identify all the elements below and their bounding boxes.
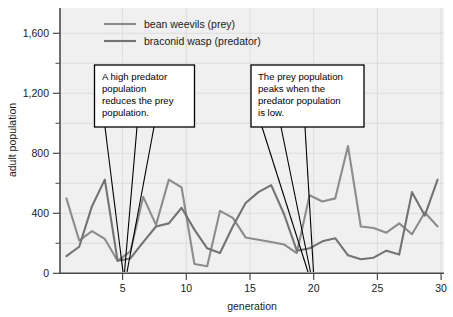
y-tick-label-0: 0 [43, 267, 49, 279]
annotation-left-line-4: population. [102, 107, 149, 118]
y-tick-label-400: 400 [31, 207, 49, 219]
x-tick-label-5: 5 [120, 282, 126, 294]
annotation-right-line-3: predator population [258, 95, 341, 106]
annotation-right-line-2: peaks when the [258, 83, 325, 94]
legend-label-predator: braconid wasp (predator) [144, 35, 261, 47]
annotation-prey-peaks: The prey population peaks when the preda… [251, 65, 364, 127]
annotation-left-line-3: reduces the prey [102, 95, 174, 106]
population-cycle-line-chart: 0 400 800 1,200 1,600 adult population 5… [0, 0, 453, 317]
x-axis-title: generation [227, 300, 277, 312]
x-tick-label-20: 20 [308, 282, 320, 294]
annotation-right-line-1: The prey population [258, 71, 343, 82]
chart-figure: 0 400 800 1,200 1,600 adult population 5… [0, 0, 453, 317]
legend-label-prey: bean weevils (prey) [144, 18, 235, 30]
y-tick-label-1600: 1,600 [23, 27, 49, 39]
x-tick-label-30: 30 [435, 282, 447, 294]
y-axis-title: adult population [6, 103, 18, 177]
y-tick-label-1200: 1,200 [23, 87, 49, 99]
y-tick-label-800: 800 [31, 147, 49, 159]
annotation-left-line-1: A high predator [102, 71, 168, 82]
x-tick-label-10: 10 [180, 282, 192, 294]
annotation-right-line-4: is low. [258, 107, 284, 118]
annotation-left-line-2: population [102, 83, 146, 94]
x-tick-label-15: 15 [244, 282, 256, 294]
x-tick-label-25: 25 [372, 282, 384, 294]
annotation-predator-reduces-prey: A high predator population reduces the p… [95, 65, 195, 127]
